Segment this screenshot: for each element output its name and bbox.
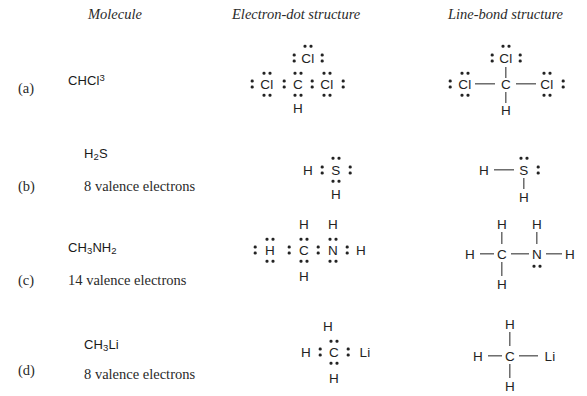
atom-n-center: N	[328, 243, 338, 258]
atom-cl-left: Cl	[458, 77, 471, 92]
atom-c-center: C	[299, 243, 309, 258]
bonding-pair-dots	[319, 348, 322, 357]
bond-c-li	[519, 355, 538, 356]
atom-h-top: H	[505, 317, 515, 332]
lone-pair-dots	[323, 72, 332, 75]
line-bond-structure-b: H S H	[470, 140, 580, 210]
column-headers: Molecule Electron-dot structure Line-bon…	[0, 6, 587, 28]
atom-cl-right: Cl	[320, 77, 333, 92]
atom-h-bottom: H	[293, 101, 303, 116]
bond-h-s	[494, 169, 514, 170]
bonding-pair-dots	[311, 80, 314, 89]
atom-h-left: H	[479, 163, 489, 178]
lone-pair-dots	[449, 80, 452, 89]
atom-c-center: C	[293, 77, 303, 92]
lone-pair-dots	[562, 80, 565, 89]
atom-n-center: N	[532, 247, 542, 262]
atom-c-center: C	[501, 77, 511, 92]
lone-pair-dots	[332, 157, 341, 160]
bonding-pair-dots	[330, 362, 339, 365]
atom-h-right: H	[565, 247, 575, 262]
atom-h-left: H	[473, 349, 483, 364]
bonding-pair-dots	[330, 340, 339, 343]
atom-c-center: C	[497, 247, 507, 262]
electron-dot-structure-c: H H H C N H H	[248, 216, 378, 292]
bonding-pair-dots	[288, 246, 291, 255]
bonding-pair-dots	[266, 260, 275, 263]
bond-h-c	[488, 355, 502, 356]
bond-h-c	[480, 253, 494, 254]
bond-c-n	[511, 253, 529, 254]
atom-s-center: S	[519, 163, 528, 178]
bond-c-cl-right	[516, 83, 536, 84]
bonding-pair-dots	[347, 348, 350, 357]
atom-h-bottom: H	[497, 277, 507, 292]
line-bond-structure-d: H H C Li H	[462, 316, 582, 392]
atom-cl-right: Cl	[540, 77, 553, 92]
formula-c: CH3NH2	[68, 240, 117, 256]
caption-b: 8 valence electrons	[84, 178, 195, 195]
lone-pair-dots	[304, 45, 313, 48]
bond-c-h-bottom	[505, 92, 506, 103]
bond-n-h-top	[536, 232, 537, 244]
atom-h-right: H	[356, 243, 366, 258]
header-line-bond: Line-bond structure	[448, 6, 563, 23]
bonding-pair-dots	[321, 166, 324, 175]
atom-h-top: H	[323, 319, 333, 334]
caption-c: 14 valence electrons	[68, 272, 186, 289]
row-label-c: (c)	[18, 272, 34, 289]
lone-pair-dots	[461, 72, 470, 75]
atom-h-left: H	[465, 247, 475, 262]
bond-n-h-right	[546, 253, 562, 254]
lone-pair-dots	[321, 54, 324, 63]
lone-pair-dots	[263, 94, 272, 97]
lone-pair-dots	[520, 157, 529, 160]
atom-h-top-c: H	[497, 217, 507, 232]
lone-pair-dots	[342, 80, 345, 89]
atom-s-center: S	[331, 163, 340, 178]
lone-pair-dots	[251, 80, 254, 89]
atom-h-bottom: H	[331, 187, 341, 202]
bonding-pair-dots	[266, 238, 275, 241]
header-electron-dot: Electron-dot structure	[232, 6, 360, 23]
formula-a: CHCl3	[68, 72, 105, 88]
lone-pair-dots	[349, 166, 352, 175]
lone-pair-dots	[263, 72, 272, 75]
row-label-a: (a)	[18, 80, 34, 97]
bond-c-h-top	[509, 332, 510, 346]
bonding-pair-dots	[346, 246, 349, 255]
header-molecule: Molecule	[88, 6, 142, 23]
atom-cl-left: Cl	[260, 77, 273, 92]
bond-c-h-bottom	[509, 364, 510, 378]
atom-h-left: H	[303, 163, 313, 178]
lone-pair-dots	[293, 54, 296, 63]
row-label-b: (b)	[18, 178, 35, 195]
atom-h-left: H	[301, 345, 311, 360]
bonding-pair-dots	[332, 180, 341, 183]
bonding-pair-dots	[254, 246, 257, 255]
line-bond-structure-c: H H H C N H H	[462, 216, 582, 296]
row-label-d: (d)	[18, 362, 35, 379]
lone-pair-dots	[543, 72, 552, 75]
atom-cl-top: Cl	[301, 51, 314, 66]
atom-cl-top: Cl	[499, 51, 512, 66]
atom-h-bottom: H	[501, 103, 511, 118]
bond-s-h-bottom	[523, 178, 524, 189]
lone-pair-dots	[461, 94, 470, 97]
lone-pair-dots	[329, 260, 338, 263]
formula-d: CH3Li	[84, 337, 119, 353]
electron-dot-structure-a: Cl Cl C Cl H	[240, 36, 370, 116]
atom-h-bottom: H	[329, 371, 339, 386]
electron-dot-structure-d: H H C Li H	[290, 316, 410, 386]
bonding-pair-dots	[283, 80, 286, 89]
caption-d: 8 valence electrons	[84, 366, 195, 383]
bond-c-cl-left	[475, 83, 495, 84]
electron-dot-structure-b: H S H	[290, 140, 400, 210]
bonding-pair-dots	[294, 72, 303, 75]
atom-h-left: H	[265, 243, 275, 258]
lone-pair-dots	[533, 265, 542, 268]
formula-b: H2S	[84, 146, 108, 162]
line-bond-structure-a: Cl Cl C Cl H	[430, 36, 580, 116]
bonding-pair-dots	[294, 94, 303, 97]
lone-pair-dots	[519, 54, 522, 63]
